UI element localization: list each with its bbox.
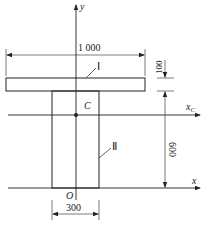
flange-part-I xyxy=(6,78,145,91)
xc-axis-label: xC xyxy=(185,101,195,114)
x-axis-label: x xyxy=(191,175,197,186)
part-II-label: Ⅱ xyxy=(112,140,117,152)
dim-web-width: 300 xyxy=(66,202,81,213)
dim-flange-width: 1 000 xyxy=(78,42,101,53)
origin-label: O xyxy=(66,190,73,201)
part-I-label: Ⅰ xyxy=(97,60,100,72)
centroid-label: C xyxy=(84,100,91,111)
web-part-II xyxy=(52,91,99,188)
y-axis-label: y xyxy=(79,1,85,12)
leader-part-II xyxy=(99,148,111,158)
dim-web-height: 600 xyxy=(167,142,178,157)
leader-part-I xyxy=(86,68,96,78)
centroid-point xyxy=(74,113,78,117)
dim-flange-thickness: 100 xyxy=(154,60,164,74)
t-section-diagram: y xC x C O Ⅰ Ⅱ 1 000 100 600 300 xyxy=(0,0,204,231)
